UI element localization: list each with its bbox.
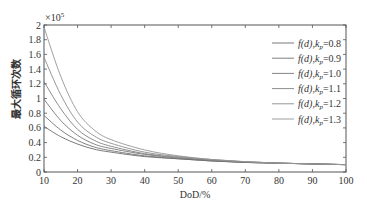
x-tick-label: 80: [274, 175, 284, 186]
legend-item-label: f(d),kp=1.0: [298, 68, 341, 81]
y-tick-label: 1.8: [29, 34, 42, 45]
x-tick-label: 100: [339, 175, 354, 186]
legend-item-label: f(d),kp=1.3: [298, 114, 341, 127]
y-axis-label: 最大循环次数: [10, 58, 22, 119]
y-tick-label: 0: [36, 167, 41, 178]
y-tick-label: 0.8: [29, 108, 42, 119]
y-tick-label: 0.4: [29, 137, 42, 148]
y-tick-label: 2: [36, 20, 41, 31]
x-axis-label: DoD/%: [180, 189, 211, 200]
x-tick-label: 30: [106, 175, 116, 186]
x-tick-label: 60: [207, 175, 217, 186]
x-tick-label: 50: [173, 175, 183, 186]
x-tick-label: 20: [73, 175, 83, 186]
y-tick-label: 0.2: [29, 152, 42, 163]
legend-item-label: f(d),kp=1.2: [298, 98, 341, 111]
y-tick-label: 1.4: [29, 64, 42, 75]
x-tick-label: 40: [140, 175, 150, 186]
y-tick-label: 1.6: [29, 49, 42, 60]
x-tick-label: 70: [240, 175, 250, 186]
line-chart: 102030405060708090100 00.20.40.60.811.21…: [0, 0, 367, 208]
legend-item-label: f(d),kp=1.1: [298, 83, 341, 96]
x-tick-label: 90: [307, 175, 317, 186]
y-tick-label: 1: [36, 93, 41, 104]
y-axis-multiplier: ×105: [45, 11, 65, 23]
y-tick-label: 1.2: [29, 78, 42, 89]
legend-item-label: f(d),kp=0.9: [298, 53, 341, 66]
legend-item-label: f(d),kp=0.8: [298, 38, 341, 51]
y-tick-label: 0.6: [29, 122, 42, 133]
legend: f(d),kp=0.8f(d),kp=0.9f(d),kp=1.0f(d),kp…: [272, 38, 341, 127]
